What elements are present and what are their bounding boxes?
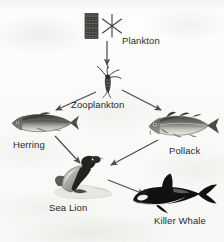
pollack-tail <box>207 118 219 134</box>
label-herring: Herring <box>13 140 45 150</box>
label-killer-whale: Killer Whale <box>154 216 206 226</box>
pollack-icon <box>146 110 220 142</box>
zooplankton-head <box>105 74 110 78</box>
killer-whale-icon <box>128 172 220 216</box>
star-plankton-core <box>111 25 113 27</box>
pollack-dorsal-fin-2 <box>179 112 190 116</box>
label-sea-lion: Sea Lion <box>49 203 87 213</box>
food-chain-diagram: Plankton Zoopla <box>0 0 224 242</box>
zooplankton-icon <box>88 64 128 98</box>
pollack-barbel <box>150 131 151 135</box>
pollack-eye <box>154 123 156 125</box>
pollack-dorsal-fin-3 <box>192 114 202 117</box>
killer-whale-flukes <box>198 185 217 204</box>
label-pollack: Pollack <box>169 146 200 156</box>
zooplankton-speck <box>107 67 109 69</box>
label-plankton: Plankton <box>122 36 160 46</box>
label-zooplankton: Zooplankton <box>71 100 124 110</box>
diatom-chain-icon <box>85 14 98 39</box>
plankton-icon <box>84 12 126 42</box>
killer-whale-dorsal-fin <box>162 174 173 189</box>
herring-eye <box>17 121 19 123</box>
sea-lion-eye <box>92 159 94 161</box>
herring-icon <box>8 110 80 136</box>
sea-lion-icon <box>52 148 120 204</box>
